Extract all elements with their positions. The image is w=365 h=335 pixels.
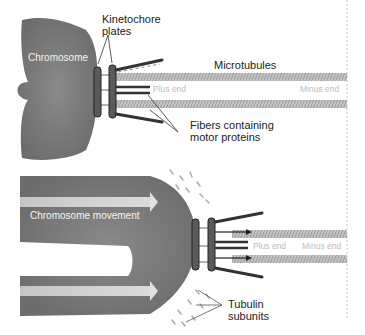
top-kinetochore: [94, 60, 162, 122]
bottom-minus-end-label: Minus end: [302, 241, 341, 251]
chromosome-movement-label: Chromosome movement: [30, 210, 139, 221]
bottom-plus-end-label: Plus end: [253, 241, 286, 251]
bottom-kinetochore: [192, 213, 262, 277]
chromosome-label: Chromosome: [28, 52, 88, 63]
microtubules-label: Microtubules: [214, 59, 276, 71]
tubulin-subunits-label: Tubulin subunits: [228, 298, 269, 322]
diagram-canvas: [0, 0, 365, 335]
kinetochore-plates-label: Kinetochore plates: [102, 13, 161, 37]
top-microtubule-upper: [112, 73, 347, 81]
top-microtubule-lower: [112, 100, 347, 108]
top-plus-end-label: Plus end: [153, 84, 186, 94]
top-chromosome: [18, 18, 98, 160]
top-minus-end-label: Minus end: [300, 84, 339, 94]
fibers-label: Fibers containing motor proteins: [190, 119, 274, 143]
